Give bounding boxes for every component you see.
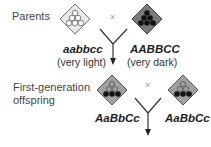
f1-label-line2: offspring [13,94,55,106]
f1-label-line1: First-generation [13,81,90,93]
medium-diamond-icon [97,75,127,105]
cross-diagram-graphics [0,0,211,147]
parent-right-genotype: AABBCC [130,43,180,55]
parent-right-phenotype: (very dark) [127,56,177,68]
dark-diamond-icon [132,4,162,34]
parent-left-phenotype: (very light) [57,56,106,68]
light-diamond-icon [60,4,90,34]
f1-left-genotype: AaBbCc [95,112,140,124]
f1-right-genotype: AaBbCc [165,112,210,124]
medium-diamond-icon [168,75,198,105]
f1-cross-symbol: × [145,80,150,90]
parent-left-genotype: aabbcc [63,43,103,55]
parents-label: Parents [12,10,50,22]
parents-cross-symbol: × [110,12,115,22]
